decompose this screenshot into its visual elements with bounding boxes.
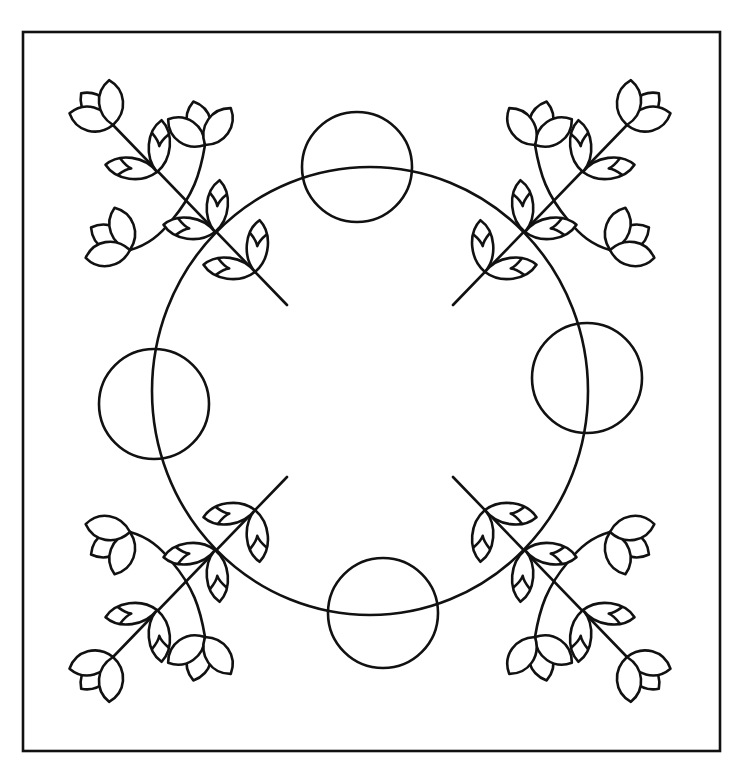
quilt-pattern-svg [0, 0, 735, 772]
corner-branch-bottom-left [66, 477, 287, 703]
quilt-pattern-canvas [0, 0, 735, 772]
corner-branch-top-right [453, 79, 674, 305]
corner-branch-bottom-right [453, 477, 674, 703]
corner-branch-top-left [66, 79, 287, 305]
